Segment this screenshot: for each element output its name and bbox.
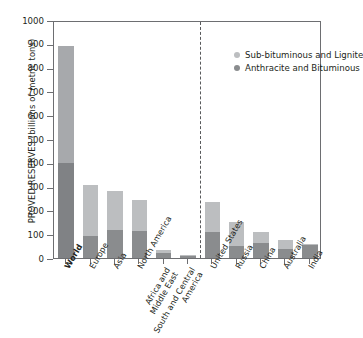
plot-area: Sub-bituminous and Lignite Anthracite an… <box>53 21 321 259</box>
bar-europe <box>83 185 99 258</box>
bar-segment-sub-bituminous <box>205 202 221 232</box>
x-tick <box>187 259 188 264</box>
bar-segment-sub-bituminous <box>58 46 74 163</box>
y-tick-label: 0 <box>4 255 44 264</box>
bar-segment-sub-bituminous <box>253 232 269 244</box>
legend-item-sub-bituminous: Sub-bituminous and Lignite <box>234 50 363 60</box>
y-tick-label: 400 <box>4 159 44 168</box>
y-tick-label: 800 <box>4 64 44 73</box>
x-tick <box>163 259 164 264</box>
legend-swatch-icon <box>234 52 240 58</box>
legend-item-anthracite: Anthracite and Bituminous <box>234 63 363 73</box>
legend-label: Anthracite and Bituminous <box>245 63 360 73</box>
bar-segment-anthracite <box>156 253 172 258</box>
y-tick-label: 600 <box>4 112 44 121</box>
legend-swatch-icon <box>234 65 240 71</box>
y-tick-label: 1000 <box>4 17 44 26</box>
y-tick-label: 300 <box>4 183 44 192</box>
chart-legend: Sub-bituminous and Lignite Anthracite an… <box>234 50 363 76</box>
bar-africa-and-middle-east <box>156 250 172 258</box>
bar-south-and-central-america <box>180 255 196 258</box>
bar-segment-sub-bituminous <box>83 185 99 236</box>
y-tick <box>47 259 53 260</box>
divider-dashed-line <box>200 22 201 258</box>
bar-segment-anthracite <box>180 256 196 258</box>
legend-label: Sub-bituminous and Lignite <box>245 50 363 60</box>
bar-world <box>58 46 74 258</box>
y-tick-label: 100 <box>4 231 44 240</box>
y-tick-label: 500 <box>4 136 44 145</box>
bar-segment-anthracite <box>58 163 74 258</box>
bar-segment-sub-bituminous <box>132 200 148 231</box>
bar-asia <box>107 191 123 258</box>
y-tick-label: 200 <box>4 207 44 216</box>
bar-segment-sub-bituminous <box>107 191 123 230</box>
y-tick-label: 700 <box>4 88 44 97</box>
y-tick-label: 900 <box>4 40 44 49</box>
